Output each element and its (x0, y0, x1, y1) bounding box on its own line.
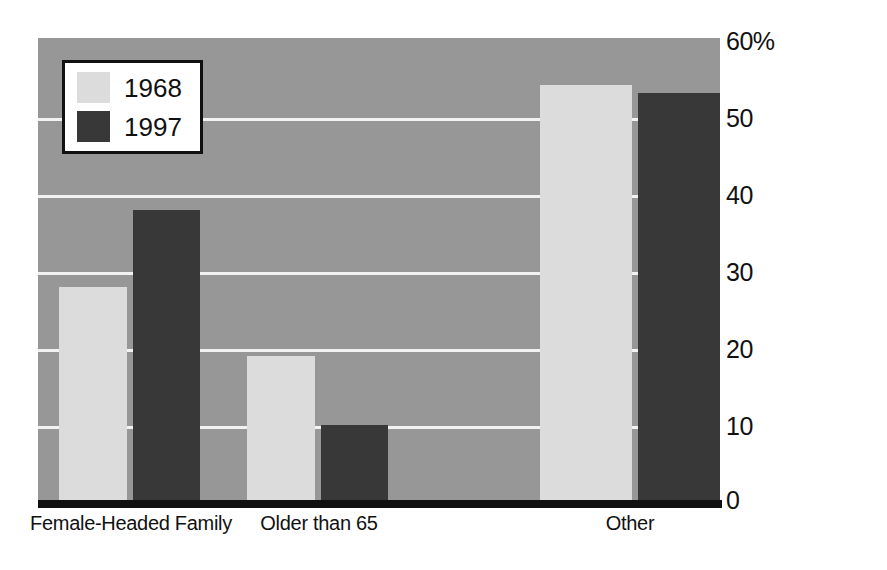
axis-baseline (38, 500, 722, 508)
y-tick-40: 40 (726, 181, 753, 210)
bar-1968-older-than-65[interactable] (247, 356, 315, 502)
bar-chart: 1968 1997 60% 50 40 30 20 10 0 Female-He… (0, 0, 887, 570)
legend-swatch-1997 (77, 111, 110, 142)
bar-1997-female-headed-family[interactable] (133, 210, 200, 502)
y-axis: 60% 50 40 30 20 10 0 (726, 0, 846, 570)
bar-1968-other[interactable] (540, 85, 632, 502)
y-tick-0: 0 (726, 486, 739, 515)
plot-area: 1968 1997 (38, 38, 720, 502)
legend-label-1997: 1997 (124, 114, 182, 140)
x-axis: Female-Headed Family Older than 65 Other (38, 512, 720, 552)
y-tick-30: 30 (726, 258, 753, 287)
bar-1968-female-headed-family[interactable] (59, 287, 127, 502)
x-tick-older-than-65: Older than 65 (260, 512, 377, 535)
x-tick-female-headed-family: Female-Headed Family (30, 512, 232, 535)
y-tick-10: 10 (726, 412, 753, 441)
legend: 1968 1997 (62, 60, 203, 154)
y-tick-60: 60% (726, 27, 775, 56)
y-tick-20: 20 (726, 335, 753, 364)
legend-entry-1968: 1968 (77, 72, 182, 103)
legend-swatch-1968 (77, 72, 110, 103)
legend-entry-1997: 1997 (77, 111, 182, 142)
bar-1997-older-than-65[interactable] (321, 425, 388, 502)
bar-1997-other[interactable] (638, 93, 720, 502)
y-tick-50: 50 (726, 104, 753, 133)
legend-label-1968: 1968 (124, 75, 182, 101)
x-tick-other: Other (606, 512, 655, 535)
